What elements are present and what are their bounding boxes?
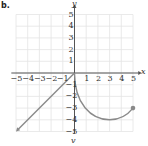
y-tick-label: −3 — [66, 104, 78, 112]
y-axis-label: y — [72, 0, 77, 8]
y-tick-label: −1 — [66, 81, 78, 89]
closed-dot-marker — [131, 106, 136, 111]
x-tick-label: 1 — [84, 75, 89, 83]
x-tick-label: 4 — [119, 75, 124, 83]
x-tick-label: 2 — [96, 75, 101, 83]
coordinate-plane — [0, 0, 148, 146]
y-tick-label: −5 — [66, 128, 78, 136]
y-tick-label: 3 — [69, 34, 74, 42]
x-tick-label: 5 — [131, 75, 136, 83]
y-tick-label: 1 — [69, 57, 74, 65]
y-tick-label: 5 — [69, 11, 74, 19]
x-tick-label: −4 — [22, 75, 34, 83]
y-tick-label: −4 — [66, 116, 78, 124]
x-tick-label: −2 — [46, 75, 58, 83]
x-tick-label: 3 — [108, 75, 113, 83]
y-tick-label: 4 — [69, 22, 74, 30]
x-tick-label: −5 — [11, 75, 23, 83]
y-tick-label: −2 — [66, 92, 78, 100]
x-axis-label: x — [141, 68, 146, 76]
bottom-label: v — [71, 137, 76, 145]
x-tick-label: −3 — [34, 75, 46, 83]
y-tick-label: 2 — [69, 46, 74, 54]
